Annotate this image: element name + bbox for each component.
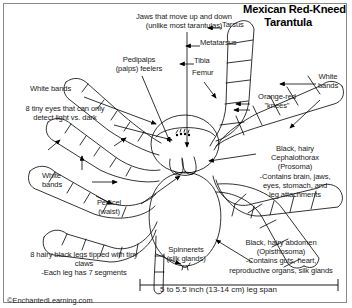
label-tarsus: Tarsus	[222, 20, 266, 29]
label-femur: Femur	[192, 68, 232, 77]
credit-line: ©EnchantedLearning.com	[7, 296, 93, 305]
label-legs: 8 hairy black legs tipped with tiny claw…	[4, 250, 164, 278]
label-white-bands-right: White bands	[308, 72, 348, 90]
diagram-page: Mexican Red-Kneed Tarantula Jaws that mo…	[0, 0, 352, 308]
scale-bar-caption: 5 to 5.5 inch (13-14 cm) leg span	[160, 285, 277, 294]
label-cephalothorax: Black, hairy Cephalothorax (Prosoma) -Co…	[240, 144, 350, 199]
label-orange-red-knees: Orange-red "knees"	[244, 92, 310, 110]
label-pedicel: Pedicel (waist)	[78, 198, 140, 216]
label-white-bands-top-left: White bands	[30, 84, 120, 93]
label-metatarsus: Metatarsus	[200, 38, 264, 47]
label-pedipalps: Pedipalps (palps) feelers	[84, 55, 194, 73]
label-white-bands-left: White bands	[42, 171, 86, 189]
label-eyes: 8 tiny eyes that can only detect light v…	[4, 104, 126, 122]
label-abdomen: Black, hairy abdomen (Opisthosoma) -Cont…	[212, 238, 350, 275]
label-jaws: Jaws that move up and down (unlike most …	[64, 12, 304, 30]
label-tibia: Tibia	[194, 56, 234, 65]
